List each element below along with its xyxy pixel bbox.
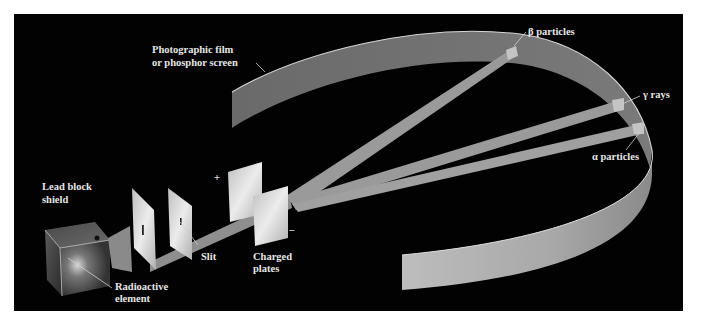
alpha-label: α particles (592, 151, 639, 162)
svg-text:plates: plates (253, 263, 279, 274)
diagram-canvas: Photographic film or phosphor screen β p… (0, 0, 703, 327)
svg-text:shield: shield (42, 194, 68, 205)
lead-block-shield (45, 222, 110, 296)
svg-text:Photographic film: Photographic film (152, 44, 234, 55)
svg-text:element: element (115, 293, 150, 304)
radioactive-label-line2: element (115, 293, 150, 304)
minus-sign: − (289, 225, 295, 236)
charged-plates-label-line1: Charged (253, 251, 292, 262)
slit-label: Slit (201, 251, 217, 262)
radioactivity-diagram: Photographic film or phosphor screen β p… (0, 0, 703, 327)
lead-block-label-line1: Lead block (42, 181, 92, 192)
radioactive-label-line1: Radioactive (115, 281, 168, 292)
svg-text:Radioactive: Radioactive (115, 281, 168, 292)
gamma-label: γ rays (642, 89, 670, 100)
radioactive-element-icon (95, 236, 100, 241)
film-label-line2: or phosphor screen (152, 57, 238, 68)
collimator-hole (142, 225, 144, 235)
negative-plate (253, 186, 288, 246)
plus-sign: + (214, 172, 220, 183)
svg-text:Charged: Charged (253, 251, 292, 262)
film-label-line1: Photographic film (152, 44, 234, 55)
beta-label: β particles (528, 26, 575, 37)
charged-plates-label-line2: plates (253, 263, 279, 274)
alpha-spot (632, 122, 644, 134)
svg-text:Lead block: Lead block (42, 181, 92, 192)
gamma-spot (612, 98, 624, 112)
svg-text:or phosphor screen: or phosphor screen (152, 57, 238, 68)
lead-block-label-line2: shield (42, 194, 68, 205)
